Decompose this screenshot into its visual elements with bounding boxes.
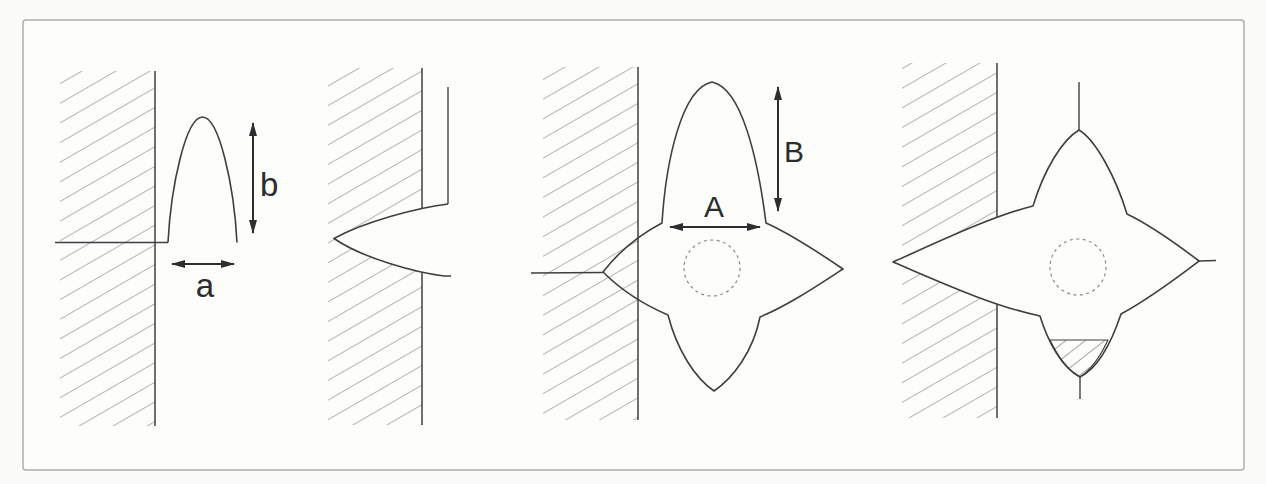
crack-approach-line-3	[531, 273, 603, 274]
dimension-label-b: b	[260, 166, 278, 203]
dimension-label-A: A	[704, 190, 724, 223]
wall-hatch-1	[60, 71, 155, 426]
dimension-label-B: B	[784, 135, 804, 168]
dimension-label-a: a	[196, 267, 215, 304]
diagram-page: b a A B	[0, 0, 1266, 484]
crack-growth-diagram: b a A B	[0, 0, 1266, 484]
crack-trace-right-4	[1199, 261, 1216, 262]
wall-hatch-3	[543, 67, 638, 420]
